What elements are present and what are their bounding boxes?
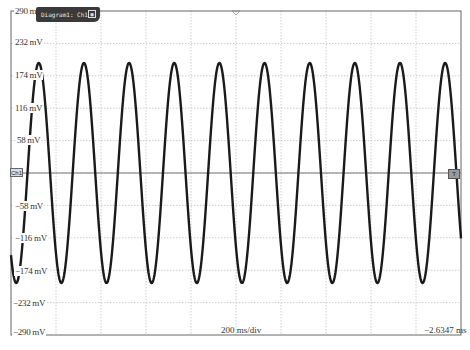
y-label-neg116: −116 mV: [14, 233, 48, 243]
trigger-level-marker[interactable]: T: [448, 169, 460, 179]
y-label-neg290: −290 mV: [12, 327, 46, 337]
timebase-label: 200 ms/div: [221, 325, 261, 335]
y-label-116: 116 mV: [14, 103, 43, 113]
y-label-neg58: −58 mV: [14, 201, 44, 211]
y-label-neg232: −232 mV: [12, 298, 46, 308]
y-label-174: 174 mV: [14, 70, 43, 80]
y-label-neg174: −174 mV: [14, 266, 48, 276]
maximize-icon[interactable]: ■: [88, 10, 96, 18]
time-offset-label: −2.6347 ms: [424, 325, 467, 335]
channel-offset-marker[interactable]: Ch1: [10, 168, 23, 177]
waveform-plot: [0, 0, 470, 350]
diagram-tag-label: Diagram1: Ch1: [41, 11, 88, 18]
y-label-58: 58 mV: [16, 135, 41, 145]
y-label-232: 232 mV: [14, 37, 43, 47]
diagram-channel-tag[interactable]: Diagram1: Ch1 ■: [36, 7, 100, 22]
oscilloscope-display: 290 mV 232 mV 174 mV 116 mV 58 mV −58 mV…: [0, 0, 470, 350]
